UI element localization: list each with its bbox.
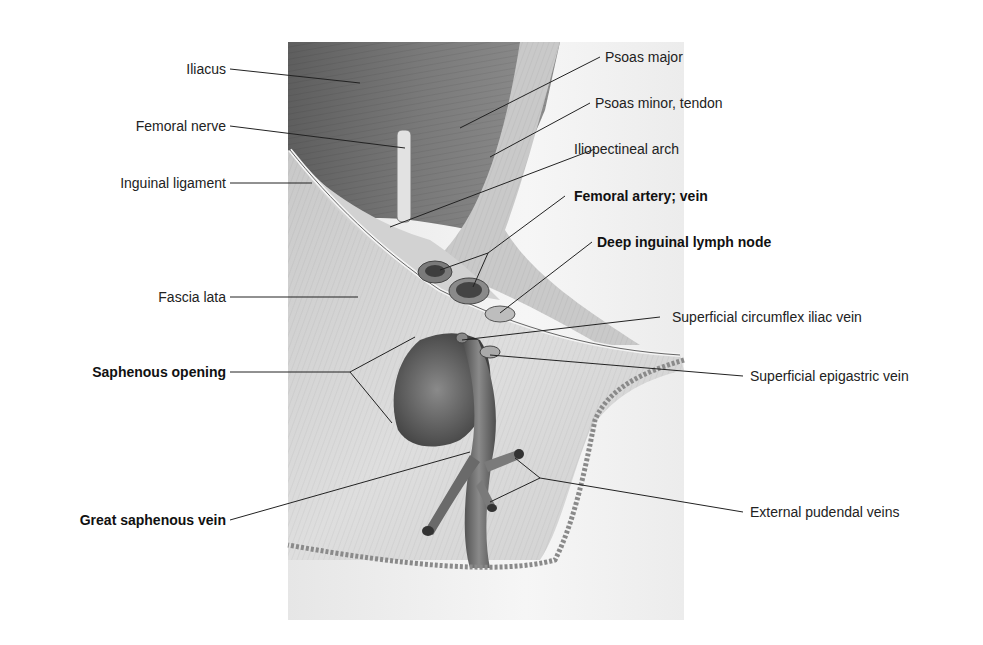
label-inguinal-ligament: Inguinal ligament: [40, 175, 226, 191]
label-femoral-nerve: Femoral nerve: [60, 118, 226, 134]
label-great-saphenous-vein: Great saphenous vein: [10, 512, 226, 528]
label-fascia-lata: Fascia lata: [60, 289, 226, 305]
superficial-circumflex-iliac-stub: [456, 333, 468, 343]
label-saphenous-opening: Saphenous opening: [20, 364, 226, 380]
label-superficial-epigastric-vein: Superficial epigastric vein: [750, 368, 909, 384]
label-iliacus: Iliacus: [110, 61, 226, 77]
label-iliopectineal-arch: Iliopectineal arch: [574, 141, 679, 157]
lymph-node-shape: [485, 306, 515, 322]
label-psoas-major: Psoas major: [605, 49, 683, 65]
superficial-epigastric-stub: [480, 346, 500, 358]
anatomy-figure: Iliacus Femoral nerve Inguinal ligament …: [0, 0, 983, 645]
label-femoral-artery-vein: Femoral artery; vein: [574, 188, 708, 204]
label-superficial-circumflex-iliac-vein: Superficial circumflex iliac vein: [672, 309, 862, 325]
label-external-pudendal-veins: External pudendal veins: [750, 504, 899, 520]
label-deep-inguinal-lymph-node: Deep inguinal lymph node: [597, 234, 771, 250]
femoral-nerve-shape: [397, 130, 411, 222]
label-psoas-minor-tendon: Psoas minor, tendon: [595, 95, 723, 111]
